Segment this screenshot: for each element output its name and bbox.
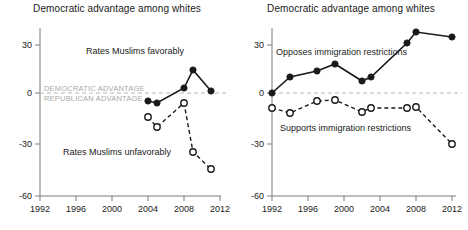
series-rates-muslims-favorably xyxy=(145,67,214,106)
panel-immigration-plot: 30 0 -30 -60 1992 1996 2000 2004 2008 20… xyxy=(234,0,468,230)
data-point xyxy=(190,149,196,155)
y-ticklabel-neg30: -30 xyxy=(251,139,264,149)
series-dashed-path xyxy=(148,103,211,169)
y-ticklabel-neg60: -60 xyxy=(19,191,32,201)
x-ticklabel-1996: 1996 xyxy=(66,204,86,214)
x-ticklabel-1996: 1996 xyxy=(298,204,318,214)
data-point xyxy=(269,105,275,111)
y-ticklabel-0: 0 xyxy=(259,88,264,98)
data-point xyxy=(208,166,214,172)
data-point xyxy=(404,40,410,46)
data-point xyxy=(449,34,455,40)
data-point xyxy=(368,74,374,80)
panel-muslims: Democratic advantage among whites 30 0 -… xyxy=(0,0,234,230)
series-label-opposes-immigration-restrictions: Opposes immigration restrictions xyxy=(276,47,408,57)
x-ticklabel-2008: 2008 xyxy=(174,204,194,214)
series-label-supports-immigration-restrictions: Supports immigration restrictions xyxy=(280,123,412,133)
data-point xyxy=(190,67,196,73)
data-point xyxy=(359,78,365,84)
data-point xyxy=(449,141,455,147)
x-ticklabel-1992: 1992 xyxy=(30,204,50,214)
data-point xyxy=(145,98,151,104)
x-ticklabel-2012: 2012 xyxy=(442,204,462,214)
data-point xyxy=(287,110,293,116)
data-point xyxy=(332,97,338,103)
x-ticklabel-2004: 2004 xyxy=(138,204,158,214)
data-point xyxy=(154,124,160,130)
data-point xyxy=(181,85,187,91)
x-ticklabel-2000: 2000 xyxy=(334,204,354,214)
data-point xyxy=(287,74,293,80)
data-point xyxy=(154,100,160,106)
x-ticklabel-1992: 1992 xyxy=(262,204,282,214)
x-ticklabel-2012: 2012 xyxy=(210,204,230,214)
data-point xyxy=(404,105,410,111)
data-point xyxy=(368,105,374,111)
data-point xyxy=(181,100,187,106)
data-point xyxy=(359,109,365,115)
x-ticklabel-2000: 2000 xyxy=(102,204,122,214)
data-point xyxy=(208,88,214,94)
x-ticklabel-2008: 2008 xyxy=(406,204,426,214)
series-rates-muslims-unfavorably xyxy=(145,100,214,172)
data-point xyxy=(145,114,151,120)
series-label-rates-muslims-favorably: Rates Muslims favorably xyxy=(86,46,185,56)
series-dashed-path xyxy=(272,100,452,144)
data-point xyxy=(314,68,320,74)
data-point xyxy=(413,29,419,35)
panel-muslims-plot: 30 0 -30 -60 1992 1996 2000 2004 2008 20… xyxy=(0,0,234,230)
data-point xyxy=(332,61,338,67)
y-ticklabel-neg30: -30 xyxy=(19,139,32,149)
data-point xyxy=(413,104,419,110)
series-label-rates-muslims-unfavorably: Rates Muslims unfavorably xyxy=(63,147,172,157)
data-point xyxy=(314,98,320,104)
data-point xyxy=(269,90,275,96)
y-ticklabel-30: 30 xyxy=(254,40,264,50)
series-supports-immigration-restrictions xyxy=(269,97,455,147)
panel-immigration: Democratic advantage among whites 30 0 -… xyxy=(234,0,468,230)
two-panel-line-chart-figure: Democratic advantage among whites 30 0 -… xyxy=(0,0,468,230)
y-ticklabel-0: 0 xyxy=(27,88,32,98)
democratic-advantage-label: DEMOCRATIC ADVANTAGE xyxy=(44,84,145,93)
series-solid-path xyxy=(148,70,211,103)
x-ticklabel-2004: 2004 xyxy=(370,204,390,214)
series-opposes-immigration-restrictions xyxy=(269,29,455,96)
republican-advantage-label: REPUBLICAN ADVANTAGE xyxy=(44,94,143,103)
y-ticklabel-30: 30 xyxy=(22,40,32,50)
y-ticklabel-neg60: -60 xyxy=(251,191,264,201)
